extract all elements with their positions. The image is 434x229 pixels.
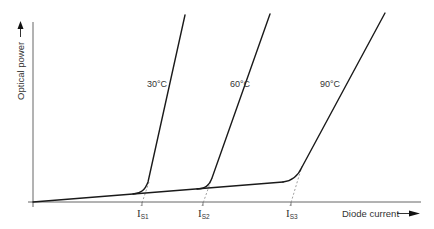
axes	[28, 22, 421, 207]
threshold-dash-s3	[290, 166, 302, 206]
curve-label-30c: 30°C	[147, 79, 168, 89]
x-axis-arrow-icon	[409, 211, 420, 217]
tick-label-s1: IS1	[137, 207, 149, 220]
curve-labels: 30°C 60°C 90°C	[147, 79, 341, 89]
y-axis-title-group: Optical power	[15, 21, 26, 100]
laser-diode-characteristic-chart: Optical power Diode current IS1 IS2 IS3	[0, 0, 434, 229]
threshold-dashes	[141, 166, 302, 206]
y-axis-title: Optical power	[15, 42, 26, 100]
tick-label-s2: IS2	[198, 207, 210, 220]
curve-label-90c: 90°C	[320, 79, 341, 89]
x-ticks	[142, 202, 291, 206]
tick-label-s3: IS3	[286, 207, 298, 220]
curves	[33, 13, 385, 202]
curve-30c	[133, 15, 185, 194]
curve-label-60c: 60°C	[230, 79, 251, 89]
x-axis-title: Diode current	[342, 208, 399, 219]
y-axis-arrow-icon	[18, 21, 24, 29]
baseline-curve	[33, 182, 283, 202]
curve-90c	[283, 13, 385, 182]
curve-60c	[197, 14, 270, 189]
tick-labels: IS1 IS2 IS3	[137, 207, 298, 220]
x-axis-title-group: Diode current	[342, 208, 420, 219]
